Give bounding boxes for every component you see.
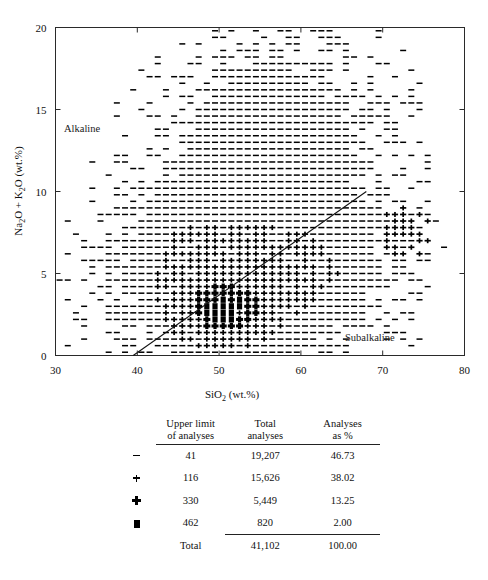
dash-marker <box>269 50 275 52</box>
row-upper-limit: 116 <box>156 467 225 490</box>
dash-marker <box>196 142 202 144</box>
dash-marker <box>237 161 243 163</box>
dash-marker <box>196 174 202 176</box>
dash-marker <box>318 142 324 144</box>
dash-marker <box>327 43 333 45</box>
dash-marker <box>294 161 300 163</box>
square-marker <box>212 303 217 309</box>
dash-marker <box>359 286 365 288</box>
dash-marker <box>335 306 341 308</box>
dash-marker <box>327 220 333 222</box>
dash-marker <box>122 279 128 281</box>
dash-marker <box>318 312 324 314</box>
dash-marker <box>261 181 267 183</box>
dash-marker <box>237 109 243 111</box>
dash-marker <box>376 30 382 32</box>
dash-marker <box>73 319 79 321</box>
dash-marker <box>212 115 218 117</box>
dash-marker <box>179 220 185 222</box>
dash-marker <box>155 76 161 78</box>
dash-marker <box>310 76 316 78</box>
dash-marker <box>327 240 333 242</box>
y-axis-title: Na2O + K2O (wt.%) <box>12 146 27 236</box>
dash-marker <box>408 69 414 71</box>
dash-marker <box>204 174 210 176</box>
dash-marker <box>335 122 341 124</box>
dash-marker <box>343 122 349 124</box>
row-total-analyses: 15,626 <box>225 467 305 490</box>
dash-marker <box>310 109 316 111</box>
dash-marker <box>318 50 324 52</box>
dash-marker <box>302 135 308 137</box>
dash-marker <box>147 214 153 216</box>
dash-marker <box>261 83 267 85</box>
dash-marker <box>155 56 161 58</box>
dash-marker <box>335 102 341 104</box>
dash-marker <box>286 260 292 262</box>
dash-marker <box>318 30 324 32</box>
dash-marker <box>81 247 87 249</box>
dash-marker <box>277 161 283 163</box>
row-analyses-percent: 38.02 <box>305 467 380 490</box>
dash-marker <box>147 325 153 327</box>
dash-marker <box>351 266 357 268</box>
dash-marker <box>220 207 226 209</box>
dash-marker <box>269 325 275 327</box>
dash-marker <box>351 260 357 262</box>
dash-marker <box>327 325 333 327</box>
dash-marker <box>417 207 423 209</box>
dash-marker <box>245 122 251 124</box>
dash-marker <box>89 260 95 262</box>
dash-marker <box>171 115 177 117</box>
dash-marker <box>130 207 136 209</box>
dash-marker <box>302 115 308 117</box>
dash-marker <box>408 102 414 104</box>
dash-marker <box>392 122 398 124</box>
dash-marker <box>335 155 341 157</box>
dash-marker <box>237 201 243 203</box>
dash-marker <box>220 56 226 58</box>
dash-marker <box>171 194 177 196</box>
dash-marker <box>179 155 185 157</box>
dash-marker <box>245 102 251 104</box>
square-marker <box>221 310 226 316</box>
dash-marker <box>277 148 283 150</box>
header-pct-line2: as % <box>333 430 353 441</box>
row-analyses-percent: 46.73 <box>305 444 380 467</box>
dash-marker <box>163 128 169 130</box>
dash-marker <box>163 89 169 91</box>
dash-marker <box>376 266 382 268</box>
dash-marker <box>343 351 349 353</box>
dash-marker <box>130 201 136 203</box>
dash-marker <box>384 115 390 117</box>
dash-marker <box>138 266 144 268</box>
dash-marker <box>147 227 153 229</box>
dash-marker <box>228 194 234 196</box>
dash-marker <box>351 286 357 288</box>
square-marker <box>221 297 226 303</box>
dash-marker <box>400 142 406 144</box>
dash-marker <box>318 266 324 268</box>
dash-marker <box>261 214 267 216</box>
dash-marker <box>302 214 308 216</box>
dash-marker <box>245 174 251 176</box>
dash-marker <box>228 214 234 216</box>
dash-marker <box>400 168 406 170</box>
dash-marker <box>228 109 234 111</box>
dash-marker <box>343 220 349 222</box>
dash-marker <box>106 240 112 242</box>
dash-marker <box>245 155 251 157</box>
dash-marker <box>327 50 333 52</box>
dash-marker <box>302 325 308 327</box>
dash-marker <box>335 37 341 39</box>
dash-marker <box>327 306 333 308</box>
dash-marker <box>294 43 300 45</box>
dash-marker <box>277 109 283 111</box>
dash-marker <box>327 214 333 216</box>
table-row: 4119,20746.73 <box>118 444 380 467</box>
dash-marker <box>310 345 316 347</box>
square-marker <box>212 310 217 316</box>
dash-marker <box>351 89 357 91</box>
dash-marker <box>253 351 259 353</box>
dash-marker <box>147 319 153 321</box>
